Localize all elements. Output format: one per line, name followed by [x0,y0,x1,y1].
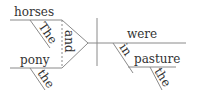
subject-word-1: horses [14,5,54,19]
modifier-word-2: the [35,67,58,91]
subject-word-2: pony [20,53,50,67]
object-modifier-word: the [151,65,173,89]
sentence-diagram: horses The pony the and were in pasture … [0,0,198,101]
object-word: pasture [134,52,180,66]
conjunction-word: and [62,30,76,53]
verb-word: were [127,27,157,41]
